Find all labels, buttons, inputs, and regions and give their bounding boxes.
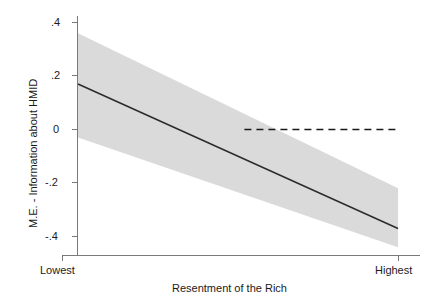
x-axis-ticks: [63, 256, 399, 262]
y-tick-label-1: .2: [51, 70, 60, 81]
y-tick-label-4: -.4: [45, 231, 58, 242]
y-tick-label-3: -.2: [45, 177, 58, 188]
y-axis-title: M.E. - Information about HMID: [28, 79, 39, 228]
chart-plot-area: [0, 0, 428, 304]
marginal-effect-line: [78, 84, 398, 228]
x-tick-label-highest: Highest: [375, 265, 412, 276]
chart-figure: .4 .2 0 -.2 -.4 Lowest Highest M.E. - In…: [0, 0, 428, 304]
x-tick-label-lowest: Lowest: [40, 265, 75, 276]
y-axis-ticks: [72, 23, 78, 237]
confidence-interval-band: [78, 33, 398, 247]
x-axis-title: Resentment of the Rich: [172, 283, 287, 294]
y-tick-label-0: .4: [51, 17, 60, 28]
y-tick-label-2: 0: [53, 124, 59, 135]
